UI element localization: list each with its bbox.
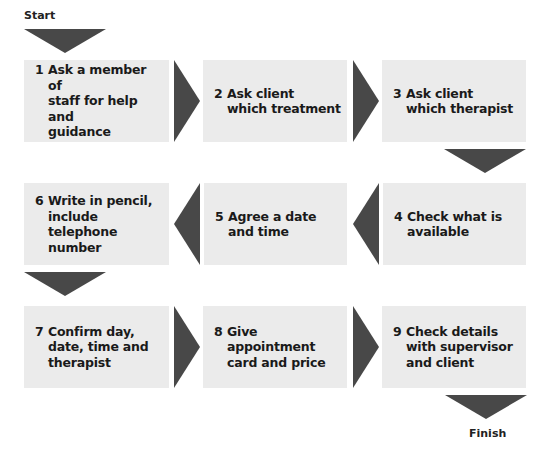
- step-number: 6: [35, 193, 48, 255]
- step-9-box: 9Check details with supervisor and clien…: [382, 306, 526, 388]
- step-7-box: 7Confirm day, date, time and therapist: [24, 306, 169, 388]
- step-number: 1: [35, 62, 48, 140]
- step-3-box: 3Ask client which therapist: [382, 60, 526, 142]
- step-4-box: 4Check what is available: [383, 183, 526, 265]
- start-arrow-icon: [24, 29, 106, 53]
- step-number: 5: [215, 209, 228, 240]
- finish-arrow-icon: [445, 395, 527, 419]
- step-1-box: 1Ask a member of staff for help and guid…: [24, 60, 169, 142]
- step-text: Agree a date and time: [228, 209, 316, 240]
- step-text: Give appointment card and price: [227, 324, 341, 371]
- arrow-right-icon: [174, 306, 200, 388]
- step-text: Check what is available: [407, 209, 502, 240]
- arrow-down-icon: [24, 272, 106, 296]
- arrow-right-icon: [353, 60, 379, 142]
- step-text: Write in pencil, include telephone numbe…: [48, 193, 163, 255]
- step-text: Ask client which therapist: [406, 86, 513, 117]
- step-text: Ask a member of staff for help and guida…: [48, 62, 163, 140]
- step-5-box: 5Agree a date and time: [204, 183, 347, 265]
- step-text: Confirm day, date, time and therapist: [48, 324, 149, 371]
- step-number: 8: [214, 324, 227, 371]
- step-text: Check details with supervisor and client: [406, 324, 513, 371]
- arrow-left-icon: [353, 183, 379, 265]
- step-8-box: 8Give appointment card and price: [203, 306, 347, 388]
- step-number: 2: [214, 86, 227, 117]
- arrow-left-icon: [174, 183, 200, 265]
- step-2-box: 2Ask client which treatment: [203, 60, 347, 142]
- step-number: 4: [394, 209, 407, 240]
- finish-label: Finish: [469, 427, 506, 440]
- step-number: 7: [35, 324, 48, 371]
- step-number: 9: [393, 324, 406, 371]
- step-text: Ask client which treatment: [227, 86, 341, 117]
- arrow-right-icon: [353, 306, 379, 388]
- step-6-box: 6Write in pencil, include telephone numb…: [24, 183, 169, 265]
- arrow-right-icon: [174, 60, 200, 142]
- step-number: 3: [393, 86, 406, 117]
- start-label: Start: [24, 9, 55, 22]
- arrow-down-icon: [444, 149, 526, 173]
